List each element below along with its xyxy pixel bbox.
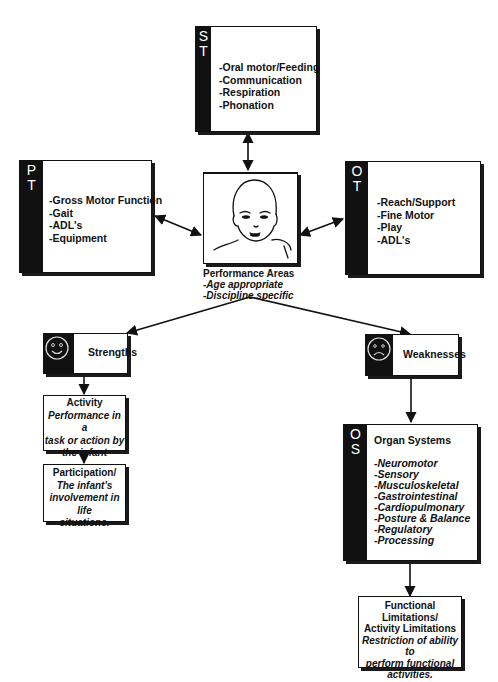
pt-band: P T	[20, 161, 43, 272]
list-item: -Processing	[374, 535, 470, 546]
list-item: -Respiration	[219, 86, 319, 99]
performance-areas-title: Performance Areas	[203, 268, 294, 279]
st-band-letter: T	[196, 44, 211, 59]
occupational-therapy-box: O T -Reach/Support -Fine Motor -Play -AD…	[345, 161, 481, 275]
functional-desc-line: Restriction of ability to	[359, 635, 461, 658]
list-item: -Oral motor/Feeding	[219, 61, 319, 74]
functional-desc-line: perform functional	[359, 658, 461, 670]
participation-desc-line: The infant's	[44, 480, 125, 493]
list-item: -Phonation	[219, 99, 319, 112]
weaknesses-band	[366, 335, 393, 375]
participation-box: Participation/ The infant's involvement …	[43, 464, 126, 522]
st-items: -Oral motor/Feeding -Communication -Resp…	[219, 61, 319, 111]
functional-desc-line: activities.	[359, 669, 461, 681]
strengths-box: Strengths	[43, 333, 128, 374]
pt-band-letter: T	[20, 178, 43, 193]
participation-desc-line: involvement in life	[44, 492, 125, 517]
list-item: -Reach/Support	[377, 196, 455, 209]
list-item: -ADL's	[49, 219, 162, 232]
smiley-face-icon	[44, 334, 74, 373]
ot-items: -Reach/Support -Fine Motor -Play -ADL's	[377, 196, 455, 246]
activity-desc-line: task or action by	[44, 435, 125, 448]
list-item: -ADL's	[377, 234, 455, 247]
strengths-band	[44, 334, 74, 373]
os-band: O S	[344, 425, 367, 560]
infant-face-drawing-icon	[204, 174, 297, 263]
strengths-label: Strengths	[88, 346, 137, 358]
list-item: -Gross Motor Function	[49, 194, 162, 207]
functional-title-line: Functional Limitations/	[359, 600, 461, 623]
weaknesses-box: Weaknesses	[365, 334, 459, 376]
performance-areas-label: Performance Areas -Age appropriate -Disc…	[203, 268, 294, 301]
activity-desc-line: Performance in a	[44, 410, 125, 435]
ot-band: O T	[346, 162, 368, 274]
participation-desc-line: situations.	[44, 517, 125, 530]
frowning-face-icon	[366, 335, 393, 375]
os-band-letter: O	[344, 427, 367, 442]
os-title: Organ Systems	[374, 434, 451, 447]
os-band-letter: S	[344, 442, 367, 457]
list-item: -Communication	[219, 74, 319, 87]
functional-limitations-box: Functional Limitations/ Activity Limitat…	[358, 596, 462, 668]
performance-line: -Discipline specific	[203, 290, 294, 301]
list-item: -Equipment	[49, 232, 162, 245]
st-band: S T	[196, 27, 211, 131]
ot-band-letter: T	[346, 179, 368, 194]
organ-systems-box: O S Organ Systems -Neuromotor -Sensory -…	[343, 424, 478, 561]
st-band-letter: S	[196, 29, 211, 44]
activity-title: Activity	[44, 397, 125, 410]
os-items: -Neuromotor -Sensory -Musculoskeletal -G…	[374, 458, 470, 546]
participation-title: Participation/	[44, 467, 125, 480]
list-item: -Gait	[49, 207, 162, 220]
physical-therapy-box: P T -Gross Motor Function -Gait -ADL's -…	[19, 160, 152, 273]
performance-line: -Age appropriate	[203, 279, 294, 290]
functional-title-line: Activity Limitations	[359, 623, 461, 635]
weaknesses-label: Weaknesses	[403, 348, 466, 360]
speech-therapy-box: S T -Oral motor/Feeding -Communication -…	[195, 26, 317, 132]
list-item: -Fine Motor	[377, 209, 455, 222]
pt-band-letter: P	[20, 163, 43, 178]
activity-desc-line: the infant	[44, 447, 125, 460]
list-item: -Play	[377, 221, 455, 234]
activity-box: Activity Performance in a task or action…	[43, 395, 126, 451]
infant-picture-frame	[203, 172, 298, 264]
ot-band-letter: O	[346, 164, 368, 179]
pt-items: -Gross Motor Function -Gait -ADL's -Equi…	[49, 194, 162, 244]
